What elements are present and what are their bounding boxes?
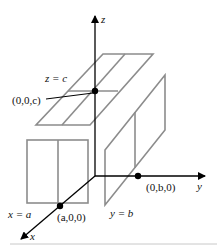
point-0-0-c-label: (0,0,c)	[12, 94, 41, 107]
plane-x-equals-a-label: x = a	[7, 208, 32, 220]
plane-y-equals-b-label: y = b	[109, 207, 134, 219]
point-0-b-0	[135, 173, 141, 179]
coordinate-planes-diagram: z y x z = c x = a y = b (0,0,c) (a,0,0) …	[0, 0, 217, 250]
x-axis-label: x	[29, 230, 35, 242]
plane-x-equals-a	[27, 140, 88, 203]
point-a-0-0	[57, 203, 63, 209]
y-axis-label: y	[196, 180, 202, 192]
z-axis-label: z	[100, 13, 106, 25]
point-a-0-0-label: (a,0,0)	[57, 211, 86, 224]
plane-z-equals-c-label: z = c	[44, 72, 67, 84]
point-0-b-0-label: (0,b,0)	[146, 181, 176, 194]
